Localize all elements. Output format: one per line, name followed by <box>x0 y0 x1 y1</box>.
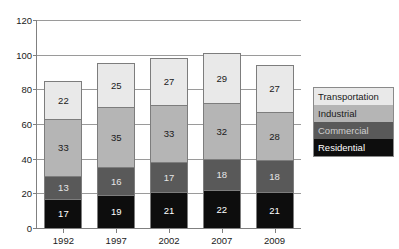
bar-segment-industrial[interactable]: 32 <box>203 103 241 158</box>
y-tick-mark <box>33 20 37 21</box>
bar-segment-value: 16 <box>111 177 122 187</box>
x-tick-mark <box>275 228 276 233</box>
y-tick-mark <box>33 159 37 160</box>
bar-segment-value: 29 <box>217 74 228 84</box>
bar-segment-residential[interactable]: 21 <box>256 192 294 228</box>
bar-group[interactable]: 272818212009 <box>256 65 294 228</box>
bar-segment-commercial[interactable]: 16 <box>97 167 135 195</box>
x-tick-mark <box>63 228 64 233</box>
bar-segment-industrial[interactable]: 35 <box>97 107 135 168</box>
bar-segment-value: 18 <box>217 170 228 180</box>
y-tick-label: 120 <box>16 15 32 26</box>
bar-group[interactable]: 253516191997 <box>97 63 135 228</box>
chart-title-remnant <box>90 0 250 2</box>
bar-segment-value: 22 <box>58 96 69 106</box>
legend-item-residential[interactable]: Residential <box>314 139 393 156</box>
chart-legend: TransportationIndustrialCommercialReside… <box>313 87 394 157</box>
bar-segment-value: 25 <box>111 81 122 91</box>
bar-segment-industrial[interactable]: 33 <box>44 119 82 176</box>
y-tick-mark <box>33 193 37 194</box>
x-tick-label: 2002 <box>158 235 179 246</box>
bar-segment-residential[interactable]: 22 <box>203 190 241 228</box>
y-tick-mark <box>33 124 37 125</box>
plot-area: 020406080100120 223313171992253516191997… <box>36 20 301 229</box>
bar-segment-value: 17 <box>164 173 175 183</box>
x-tick-label: 1997 <box>106 235 127 246</box>
bar-segment-residential[interactable]: 17 <box>44 199 82 228</box>
bar-segment-transportation[interactable]: 27 <box>150 58 188 105</box>
y-tick-mark <box>33 55 37 56</box>
x-tick-mark <box>222 228 223 233</box>
y-tick-label: 20 <box>21 188 32 199</box>
x-tick-mark <box>169 228 170 233</box>
bar-segment-transportation[interactable]: 22 <box>44 81 82 119</box>
bar-segment-value: 18 <box>269 172 280 182</box>
bar-segment-value: 33 <box>164 129 175 139</box>
bar-segment-value: 17 <box>58 209 69 219</box>
bar-segment-value: 13 <box>58 183 69 193</box>
bar-segment-residential[interactable]: 19 <box>97 195 135 228</box>
y-tick-mark <box>33 89 37 90</box>
y-tick-label: 60 <box>21 119 32 130</box>
bar-group[interactable]: 293218222007 <box>203 53 241 228</box>
bar-segment-value: 33 <box>58 143 69 153</box>
x-tick-label: 2007 <box>211 235 232 246</box>
gridline <box>37 20 301 21</box>
bar-segment-value: 27 <box>164 77 175 87</box>
bar-segment-value: 35 <box>111 133 122 143</box>
y-tick-label: 100 <box>16 49 32 60</box>
gridline <box>37 55 301 56</box>
bar-segment-commercial[interactable]: 18 <box>256 160 294 191</box>
bar-segment-residential[interactable]: 21 <box>150 192 188 228</box>
y-tick-mark <box>33 228 37 229</box>
bar-segment-transportation[interactable]: 29 <box>203 53 241 103</box>
bar-segment-value: 28 <box>269 132 280 142</box>
bar-segment-value: 22 <box>217 205 228 215</box>
bar-segment-commercial[interactable]: 18 <box>203 159 241 190</box>
bar-segment-value: 21 <box>164 206 175 216</box>
y-tick-label: 80 <box>21 84 32 95</box>
legend-item-transportation[interactable]: Transportation <box>314 88 393 105</box>
x-tick-label: 1992 <box>53 235 74 246</box>
x-tick-label: 2009 <box>264 235 285 246</box>
x-tick-mark <box>116 228 117 233</box>
bar-segment-industrial[interactable]: 28 <box>256 112 294 161</box>
stacked-bar-chart: 020406080100120 223313171992253516191997… <box>0 0 399 249</box>
bar-segment-transportation[interactable]: 27 <box>256 65 294 112</box>
bar-segment-value: 27 <box>269 84 280 94</box>
bar-group[interactable]: 273317212002 <box>150 58 188 228</box>
legend-item-commercial[interactable]: Commercial <box>314 122 393 139</box>
legend-item-industrial[interactable]: Industrial <box>314 105 393 122</box>
bar-segment-transportation[interactable]: 25 <box>97 63 135 106</box>
bar-segment-commercial[interactable]: 17 <box>150 162 188 191</box>
y-tick-label: 40 <box>21 153 32 164</box>
bar-segment-value: 32 <box>217 127 228 137</box>
bar-segment-value: 19 <box>111 207 122 217</box>
bar-segment-value: 21 <box>269 206 280 216</box>
bar-group[interactable]: 223313171992 <box>44 81 82 228</box>
bar-segment-industrial[interactable]: 33 <box>150 105 188 162</box>
y-tick-label: 0 <box>27 223 32 234</box>
bar-segment-commercial[interactable]: 13 <box>44 176 82 199</box>
